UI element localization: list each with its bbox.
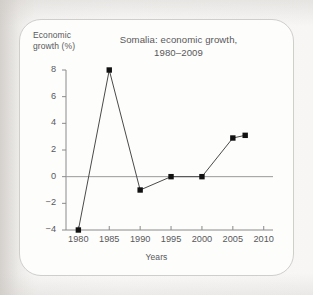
x-tick-label: 2010 bbox=[247, 235, 281, 244]
figure-inner: Economic growth (%) Somalia: economic gr… bbox=[20, 20, 293, 275]
x-tick-label: 2000 bbox=[185, 235, 219, 244]
x-tick-label: 1985 bbox=[92, 235, 126, 244]
y-tick-label: −2 bbox=[34, 198, 56, 207]
x-tick-label: 1980 bbox=[61, 235, 95, 244]
y-tick-label: 8 bbox=[34, 65, 56, 74]
y-tick-label: 0 bbox=[34, 172, 56, 181]
plot-area: −4−202468 1980198519901995200020052010 bbox=[20, 20, 293, 275]
y-tick-label: 4 bbox=[34, 118, 56, 127]
x-tick-label: 2005 bbox=[216, 235, 250, 244]
chart-series-line bbox=[78, 70, 245, 230]
backdrop-shading-bottom bbox=[0, 273, 313, 295]
y-tick-label: 6 bbox=[34, 92, 56, 101]
x-tick-label: 1995 bbox=[154, 235, 188, 244]
y-tick-label: 2 bbox=[34, 145, 56, 154]
x-axis-title: Years bbox=[20, 252, 293, 263]
x-tick-label: 1990 bbox=[123, 235, 157, 244]
y-tick-label: −4 bbox=[34, 225, 56, 234]
figure-card: Economic growth (%) Somalia: economic gr… bbox=[19, 19, 294, 276]
chart-data-markers bbox=[76, 67, 248, 232]
